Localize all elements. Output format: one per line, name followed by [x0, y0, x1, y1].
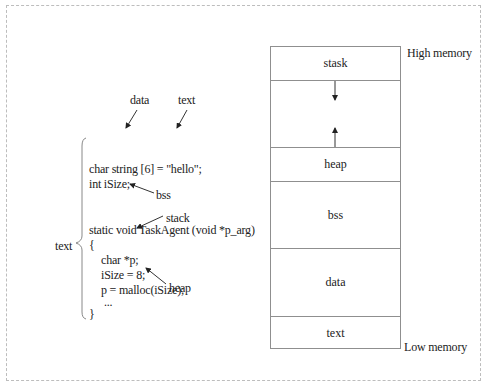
- arrow-data-icon: [126, 110, 137, 128]
- arrows-overlay: [0, 0, 486, 387]
- arrow-stack-icon: [137, 216, 163, 228]
- arrow-text-icon: [177, 110, 187, 128]
- arrow-heap-icon: [146, 268, 166, 284]
- brace-icon: [76, 138, 86, 319]
- arrow-bss-icon: [130, 184, 154, 193]
